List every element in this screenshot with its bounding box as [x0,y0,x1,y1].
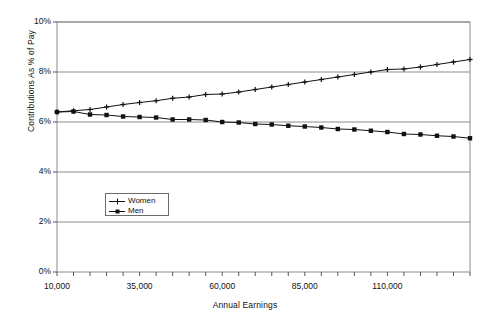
data-point-women [137,100,142,105]
data-point-women [203,92,208,97]
data-point-women [104,104,109,109]
data-point-men [286,124,290,128]
data-point-men [451,134,455,138]
women-marker-icon [109,197,125,206]
data-point-women [87,107,92,112]
data-point-women [418,64,423,69]
data-point-men [468,136,472,140]
data-point-women [335,74,340,79]
data-point-men [203,118,207,122]
data-point-women [385,67,390,72]
data-point-men [435,134,439,138]
data-point-men [137,115,141,119]
line-chart: Contributions As % of Pay Annual Earning… [0,0,490,325]
data-point-women [154,98,159,103]
data-point-men [369,129,373,133]
data-point-men [170,117,174,121]
data-point-women [187,94,192,99]
data-point-women [302,79,307,84]
data-point-women [434,62,439,67]
chart-legend: Women Men [105,193,169,216]
data-point-men [237,120,241,124]
data-point-men [303,124,307,128]
data-point-men [253,122,257,126]
legend-label-men: Men [128,206,144,216]
data-point-men [55,110,59,114]
data-point-men [154,115,158,119]
series-line-women [57,60,470,113]
data-point-men [336,127,340,131]
data-point-women [269,84,274,89]
data-point-men [270,122,274,126]
data-point-women [220,91,225,96]
data-point-men [418,132,422,136]
legend-item-women: Women [109,196,165,206]
data-point-men [121,114,125,118]
series-line-men [57,112,470,139]
legend-item-men: Men [109,206,165,216]
data-point-men [104,113,108,117]
plot-border [57,22,470,272]
data-point-men [402,132,406,136]
data-point-men [71,109,75,113]
data-point-women [467,57,472,62]
data-point-men [319,125,323,129]
men-marker-icon [109,207,125,216]
data-point-men [352,127,356,131]
data-point-women [352,72,357,77]
plot-area [0,0,490,325]
data-point-men [88,112,92,116]
data-point-women [286,82,291,87]
data-point-men [187,117,191,121]
data-point-women [120,102,125,107]
data-point-women [368,69,373,74]
data-point-women [451,59,456,64]
data-point-men [385,130,389,134]
data-point-women [236,89,241,94]
data-point-women [170,96,175,101]
data-point-men [220,120,224,124]
data-point-women [401,66,406,71]
legend-label-women: Women [128,196,155,206]
data-point-women [319,77,324,82]
data-point-women [253,87,258,92]
